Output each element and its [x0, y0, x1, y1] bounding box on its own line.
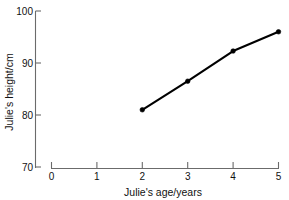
x-tick-label: 3: [185, 171, 191, 182]
data-point: [231, 49, 236, 54]
line-chart: 100 90 80 70 0 1 2 3 4 5 Julie's age/yea…: [0, 0, 289, 200]
chart-plot-area: 100 90 80 70 0 1 2 3 4 5 Julie's age/yea…: [0, 0, 289, 200]
x-tick-label: 4: [230, 171, 236, 182]
data-point: [185, 79, 190, 84]
x-tick-label: 2: [140, 171, 146, 182]
data-point: [276, 30, 281, 35]
y-axis-title: Julie's height/cm: [3, 53, 15, 131]
x-tick-label: 5: [276, 171, 282, 182]
y-tick-label: 70: [22, 162, 34, 173]
x-tick-label: 1: [94, 171, 100, 182]
x-tick-label: 0: [49, 171, 55, 182]
y-tick-label: 100: [16, 6, 33, 17]
data-point: [140, 108, 145, 113]
chart-background: [0, 0, 289, 200]
y-tick-label: 90: [22, 58, 34, 69]
y-tick-label: 80: [22, 110, 34, 121]
x-axis-title: Julie's age/years: [124, 186, 202, 198]
